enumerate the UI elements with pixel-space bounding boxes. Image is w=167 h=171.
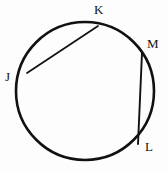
chord-jk [27, 26, 98, 73]
circle-shape [16, 22, 154, 160]
point-label-j: J [5, 70, 10, 83]
point-label-k: K [94, 3, 103, 16]
point-label-l: L [145, 140, 153, 153]
geometry-figure: J K M L [0, 0, 167, 171]
geometry-canvas [0, 0, 167, 171]
point-label-m: M [147, 37, 159, 50]
